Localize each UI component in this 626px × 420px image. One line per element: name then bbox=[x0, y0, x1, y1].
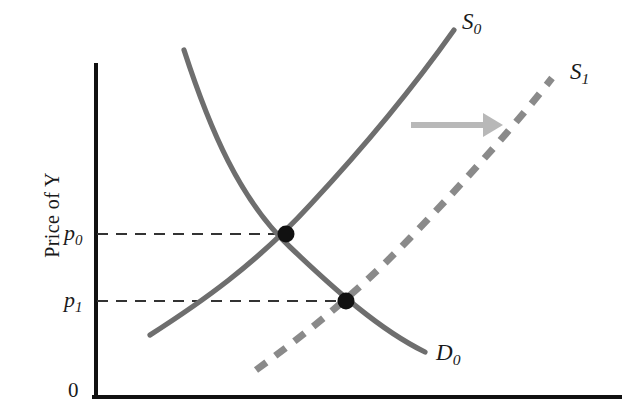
supply-curve-s0 bbox=[150, 30, 454, 335]
y-tick-label-p0: p0 bbox=[64, 222, 82, 248]
y-axis-label: Price of Y bbox=[42, 155, 62, 275]
curve-label-s1: S1 bbox=[570, 60, 589, 87]
supply-curve-s1 bbox=[256, 78, 552, 370]
supply-shift-arrow bbox=[411, 113, 503, 137]
plot-canvas bbox=[0, 0, 626, 420]
curve-label-s0: S0 bbox=[462, 10, 481, 37]
curve-label-d0: D0 bbox=[436, 341, 460, 368]
y-tick-label-p1: p1 bbox=[64, 289, 82, 315]
equilibrium-point-0 bbox=[278, 226, 295, 243]
origin-label: 0 bbox=[68, 380, 79, 401]
demand-curve-d0 bbox=[184, 50, 425, 352]
supply-demand-figure: S0 S1 D0 p0 p1 0 Price of Y bbox=[0, 0, 626, 420]
equilibrium-point-1 bbox=[338, 293, 355, 310]
